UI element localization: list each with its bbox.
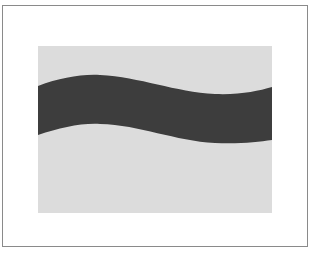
wave-illustration [0, 0, 314, 253]
